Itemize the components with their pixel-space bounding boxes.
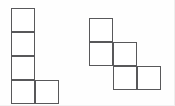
grid-cell xyxy=(137,66,161,90)
grid-cell xyxy=(35,80,59,104)
left-shape xyxy=(11,8,59,104)
grid-cell xyxy=(113,66,137,90)
grid-cell xyxy=(11,80,35,104)
figure-canvas xyxy=(0,0,175,106)
right-shape xyxy=(89,18,161,90)
grid-cell xyxy=(89,18,113,42)
grid-cell xyxy=(113,42,137,66)
grid-cell xyxy=(11,8,35,32)
grid-cell xyxy=(11,56,35,80)
grid-cell xyxy=(11,32,35,56)
grid-cell xyxy=(89,42,113,66)
